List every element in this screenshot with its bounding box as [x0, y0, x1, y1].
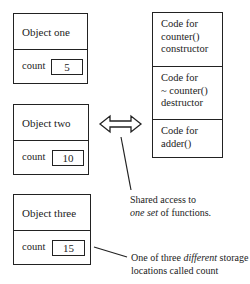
annotation-text: locations called count: [131, 265, 248, 278]
annotation-emphasis: one set: [130, 207, 158, 218]
connector-graphics: [0, 0, 250, 284]
shared-leader-line: [121, 137, 131, 190]
annotation-text: Shared access to: [130, 194, 196, 205]
storage-annotation: One of three different storage locations…: [131, 252, 248, 277]
shared-access-annotation: Shared access to one set of functions.: [130, 194, 211, 219]
annotation-text: storage: [217, 252, 248, 263]
double-headed-arrow-icon: [100, 116, 141, 132]
annotation-emphasis: different: [183, 252, 217, 263]
annotation-text: One of three: [131, 252, 183, 263]
storage-leader-line: [94, 247, 127, 257]
annotation-text: of functions.: [158, 207, 211, 218]
